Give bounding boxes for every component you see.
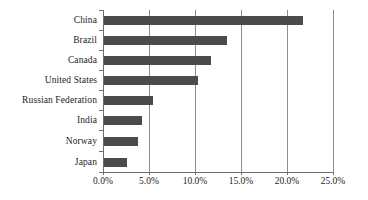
x-axis-tick (241, 172, 242, 175)
x-axis-tick (149, 172, 150, 175)
category-label-norway: Norway (0, 131, 97, 151)
category-label-united-states: United States (0, 70, 97, 90)
chart-row: Russian Federation (0, 90, 368, 110)
bar-japan[interactable] (104, 158, 127, 167)
bar-russian-federation[interactable] (104, 96, 153, 105)
x-axis-label-25: 25.0% (303, 176, 363, 186)
x-axis-tick (195, 172, 196, 175)
chart-row: Canada (0, 50, 368, 70)
chart-row: Norway (0, 131, 368, 151)
bar-china[interactable] (104, 16, 303, 25)
x-axis-line (103, 172, 334, 173)
category-label-russian-federation: Russian Federation (0, 90, 97, 110)
category-label-china: China (0, 10, 97, 30)
chart-row: United States (0, 70, 368, 90)
x-axis-tick (287, 172, 288, 175)
bar-united-states[interactable] (104, 76, 198, 85)
x-axis-tick (333, 172, 334, 175)
category-label-canada: Canada (0, 50, 97, 70)
category-label-india: India (0, 110, 97, 130)
category-label-brazil: Brazil (0, 30, 97, 50)
bar-india[interactable] (104, 116, 142, 125)
chart-row: China (0, 10, 368, 30)
bar-canada[interactable] (104, 56, 211, 65)
category-label-japan: Japan (0, 152, 97, 172)
chart-row: Brazil (0, 30, 368, 50)
x-axis-tick (103, 172, 104, 175)
bar-norway[interactable] (104, 137, 138, 146)
bar-brazil[interactable] (104, 36, 227, 45)
chart-row: India (0, 110, 368, 130)
bar-chart: China Brazil Canada United States Russia… (0, 0, 368, 200)
chart-row: Japan (0, 152, 368, 172)
